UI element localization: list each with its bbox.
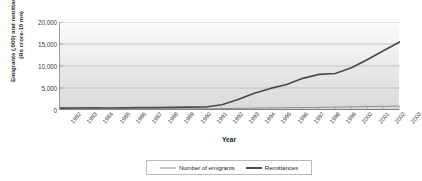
y-axis-tick-label: 15,000 [11, 41, 57, 48]
x-axis-tick-label: 2000 [361, 111, 374, 125]
legend-line-swatch-icon [160, 166, 176, 170]
x-axis-tick-label: 1992 [231, 111, 244, 125]
y-axis-tick-label: 10,000 [11, 63, 57, 70]
x-axis-tick-label: 1988 [167, 111, 180, 125]
legend-item-remittances[interactable]: Remittances [246, 164, 298, 171]
x-axis-tick-label: 1983 [86, 111, 99, 125]
legend-label: Number of emigrants [179, 164, 235, 171]
x-axis-tick-label: 1991 [215, 111, 228, 125]
x-axis-tick-label: 1995 [280, 111, 293, 125]
x-axis-tick-label: 1984 [102, 111, 115, 125]
x-axis-tick-label: 2001 [377, 111, 390, 125]
x-axis-tick-label: 1985 [118, 111, 131, 125]
legend-label: Remittances [265, 164, 298, 171]
x-axis-title: Year [0, 136, 422, 143]
x-axis-tick-label: 1996 [296, 111, 309, 125]
x-axis-tick-label: 2003 [410, 111, 422, 125]
chart-container: Emigrants (,000) and remittances (Rs cro… [0, 0, 422, 181]
chart-legend: Number of emigrants Remittances [146, 160, 312, 175]
x-axis-tick-label: 1982 [70, 111, 83, 125]
y-axis-tick-label: 0 [11, 107, 57, 114]
legend-item-emigrants[interactable]: Number of emigrants [160, 164, 235, 171]
x-axis-tick-label: 1987 [150, 111, 163, 125]
x-axis-tick-label: 1993 [248, 111, 261, 125]
x-axis-tick-label: 1986 [134, 111, 147, 125]
y-axis-tick-label: 20,000 [11, 19, 57, 26]
legend-line-swatch-icon [246, 166, 262, 170]
x-axis-tick-label: 1989 [183, 111, 196, 125]
plot-svg [60, 22, 400, 110]
x-axis-tick-label: 2002 [393, 111, 406, 125]
plot-area [59, 22, 399, 110]
x-axis-tick-label: 1997 [312, 111, 325, 125]
x-axis-tick-labels: 1982198319841985198619871988198919901991… [59, 111, 399, 137]
x-axis-tick-label: 1999 [345, 111, 358, 125]
x-axis-tick-label: 1998 [329, 111, 342, 125]
y-axis-tick-labels: 05,00010,00015,00020,000 [9, 0, 57, 181]
y-axis-tick-label: 5,000 [11, 85, 57, 92]
x-axis-tick-label: 1990 [199, 111, 212, 125]
x-axis-tick-label: 1994 [264, 111, 277, 125]
